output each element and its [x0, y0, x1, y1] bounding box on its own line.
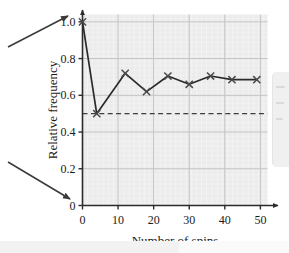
y-tick-label: 0.4 [61, 125, 76, 139]
x-tick-label: 50 [254, 213, 266, 227]
chart-figure: 00.20.40.60.81.0 01020304050 Relative fr… [0, 0, 289, 253]
y-tick-label: 1.0 [61, 15, 76, 29]
x-tick-label: 20 [148, 213, 160, 227]
callout-line-1 [276, 86, 285, 88]
y-tick-label: 0.6 [61, 88, 76, 102]
y-axis-tick-labels: 00.20.40.60.81.0 [61, 15, 76, 213]
side-callout-panel [272, 72, 289, 167]
callout-line-3 [276, 118, 283, 120]
y-tick-label: 0.2 [61, 162, 76, 176]
y-tick-label: 0.8 [61, 52, 76, 66]
page-bottom-band [0, 241, 289, 253]
callout-line-2 [276, 102, 284, 104]
relative-frequency-line-chart: 00.20.40.60.81.0 01020304050 Relative fr… [0, 0, 289, 253]
y-axis-title: Relative frequency [45, 60, 60, 159]
x-tick-label: 40 [219, 213, 231, 227]
x-tick-label: 0 [80, 213, 86, 227]
upper-callout-arrow [8, 16, 68, 47]
x-tick-label: 30 [183, 213, 195, 227]
x-axis-tick-labels: 01020304050 [80, 213, 267, 227]
x-tick-label: 10 [112, 213, 124, 227]
y-tick-label: 0 [70, 199, 76, 213]
plot-area-background [83, 15, 268, 206]
